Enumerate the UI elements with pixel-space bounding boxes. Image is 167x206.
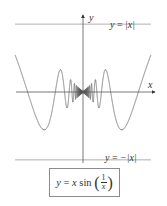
formula-sin: sin	[77, 177, 95, 188]
formula-box: y = x sin ( 1 x )	[49, 168, 120, 197]
label-rhs: |x|	[125, 19, 135, 30]
label-rhs: −|x|	[120, 152, 137, 163]
formula-eq: =	[61, 177, 72, 188]
x-axis-label: x	[148, 80, 152, 90]
left-paren: (	[94, 175, 99, 191]
label-lower-envelope: y = −|x|	[105, 153, 137, 163]
y-axis-label: y	[89, 13, 93, 23]
fraction-denominator: x	[102, 183, 106, 191]
label-upper-envelope: y = |x|	[110, 20, 135, 30]
right-paren: )	[108, 175, 113, 191]
label-eq: =	[109, 152, 120, 163]
fraction: 1 x	[101, 174, 107, 191]
label-eq: =	[114, 19, 125, 30]
